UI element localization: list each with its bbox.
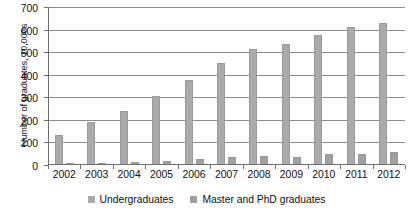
y-tick-label: 700 <box>21 3 38 14</box>
y-tick-label: 100 <box>21 138 38 149</box>
x-axis-label: 2003 <box>80 169 112 180</box>
x-axis-label: 2002 <box>48 169 80 180</box>
bar-chart: Number of graduates, 10,000s 01002003004… <box>0 0 413 215</box>
y-tick-label: 400 <box>21 70 38 81</box>
legend-swatch-icon <box>88 196 95 203</box>
chart-legend: UndergraduatesMaster and PhD graduates <box>0 194 413 205</box>
x-axis-label: 2012 <box>373 169 405 180</box>
x-axis-label: 2006 <box>178 169 210 180</box>
y-tick-label: 500 <box>21 48 38 59</box>
x-axis-label: 2005 <box>145 169 177 180</box>
legend-swatch-icon <box>190 196 197 203</box>
legend-item[interactable]: Undergraduates <box>88 194 174 205</box>
y-tick-label: 200 <box>21 115 38 126</box>
x-axis-label: 2010 <box>308 169 340 180</box>
legend-item[interactable]: Master and PhD graduates <box>190 194 325 205</box>
x-axis-labels: 2002200320042005200620072008200920102011… <box>48 169 405 180</box>
x-axis-label: 2008 <box>243 169 275 180</box>
x-axis-label: 2004 <box>113 169 145 180</box>
x-axis-label: 2007 <box>210 169 242 180</box>
plot-area: 0100200300400500600700 <box>48 7 405 165</box>
legend-label: Undergraduates <box>100 194 174 205</box>
y-tick-label: 0 <box>32 161 38 172</box>
x-tick-mark <box>405 165 406 169</box>
y-tick-label: 600 <box>21 25 38 36</box>
legend-label: Master and PhD graduates <box>202 194 325 205</box>
x-axis-label: 2009 <box>275 169 307 180</box>
x-axis-label: 2011 <box>340 169 372 180</box>
plot-frame <box>48 7 405 165</box>
y-tick-label: 300 <box>21 93 38 104</box>
